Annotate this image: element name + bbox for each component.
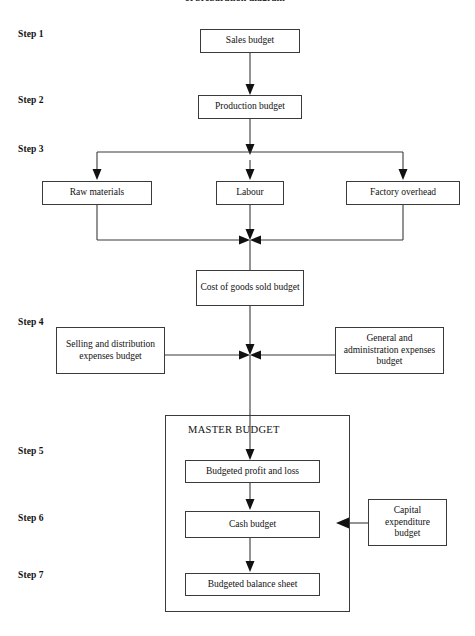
arrowhead-labour-in <box>246 169 255 180</box>
step-label-1: Step 1 <box>18 29 44 39</box>
node-cost-of-goods-sold[interactable]: Cost of goods sold budget <box>196 270 304 306</box>
node-production-budget-label: Production budget <box>201 101 299 113</box>
node-sales-budget-label: Sales budget <box>203 35 297 47</box>
node-budgeted-profit-loss-label: Budgeted profit and loss <box>188 466 317 478</box>
node-general-administration[interactable]: General and administration expenses budg… <box>335 327 444 374</box>
arrowhead-bus-center-top <box>246 144 255 155</box>
node-budgeted-profit-loss[interactable]: Budgeted profit and loss <box>185 460 320 483</box>
node-cash-budget-label: Cash budget <box>188 519 317 531</box>
diagram-top-title: et preparation diagram <box>185 0 445 1</box>
node-factory-overhead[interactable]: Factory overhead <box>346 181 460 205</box>
node-factory-overhead-label: Factory overhead <box>349 187 457 199</box>
node-capital-expenditure-label: Capital expenditure budget <box>371 505 444 540</box>
arrowhead-production-in <box>246 84 255 95</box>
arrowhead-merge-from-left <box>239 236 250 245</box>
node-general-administration-label: General and administration expenses budg… <box>338 333 441 368</box>
step-label-7: Step 7 <box>18 570 44 580</box>
node-labour-label: Labour <box>219 187 281 199</box>
node-raw-materials-label: Raw materials <box>45 187 149 199</box>
node-production-budget[interactable]: Production budget <box>198 95 302 119</box>
arrowhead-step4-merge-right <box>250 351 261 360</box>
arrowhead-step4-merge-left <box>239 351 250 360</box>
node-sales-budget[interactable]: Sales budget <box>200 29 300 53</box>
node-capital-expenditure[interactable]: Capital expenditure budget <box>368 499 447 546</box>
arrowhead-step4-merge-top <box>246 344 255 355</box>
node-budgeted-balance-sheet-label: Budgeted balance sheet <box>188 579 317 591</box>
step-label-6: Step 6 <box>18 513 44 523</box>
node-raw-materials[interactable]: Raw materials <box>42 181 152 205</box>
step-label-4: Step 4 <box>18 317 44 327</box>
node-labour[interactable]: Labour <box>216 181 284 205</box>
arrowhead-merge-from-top <box>246 229 255 240</box>
arrowhead-merge-from-right <box>250 236 261 245</box>
node-selling-distribution[interactable]: Selling and distribution expenses budget <box>56 327 165 374</box>
node-selling-distribution-label: Selling and distribution expenses budget <box>59 339 162 362</box>
step-label-5: Step 5 <box>18 446 44 456</box>
arrowhead-factory-overhead-in <box>399 169 408 180</box>
master-budget-title: MASTER BUDGET <box>188 424 280 435</box>
node-budgeted-balance-sheet[interactable]: Budgeted balance sheet <box>185 573 320 596</box>
flowchart-canvas: et preparation diagram <box>0 0 475 636</box>
step-label-3: Step 3 <box>18 144 44 154</box>
step-label-2: Step 2 <box>18 95 44 105</box>
node-cost-of-goods-sold-label: Cost of goods sold budget <box>199 282 301 294</box>
arrowhead-raw-materials-in <box>93 169 102 180</box>
node-cash-budget[interactable]: Cash budget <box>185 511 320 538</box>
